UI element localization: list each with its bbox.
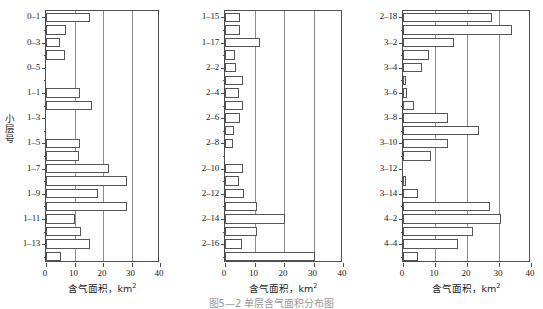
x-axis-title-text: 含气面积，km: [68, 283, 133, 294]
bar: [403, 13, 492, 22]
y-axis-tick: [399, 93, 403, 94]
y-axis-minor-tick: [44, 181, 46, 182]
x-axis-tick: [160, 263, 161, 267]
y-axis-title: 小层号: [2, 114, 16, 144]
bar: [46, 176, 127, 185]
bar: [46, 189, 98, 198]
x-axis-tick-label: 20: [98, 268, 107, 278]
bar: [403, 25, 512, 34]
y-axis-minor-tick: [223, 80, 225, 81]
y-axis-minor-tick: [44, 257, 46, 258]
bar: [46, 164, 109, 173]
y-axis-tick-label: 3–4: [384, 62, 397, 72]
bar: [403, 50, 429, 59]
bar: [46, 151, 79, 160]
y-axis-tick-label: 1–9: [27, 188, 40, 198]
gridline: [314, 11, 315, 261]
y-axis-tick-label: 2–10: [202, 163, 219, 173]
y-axis-minor-tick: [401, 206, 403, 207]
y-axis-tick-label: 2–16: [202, 238, 219, 248]
x-axis-tick-label: 20: [462, 268, 471, 278]
y-axis-tick-label: 2–6: [206, 112, 219, 122]
bar: [46, 38, 60, 47]
bar: [403, 214, 501, 223]
y-axis-minor-tick: [44, 30, 46, 31]
y-axis-tick: [42, 93, 46, 94]
y-axis-minor-tick: [223, 232, 225, 233]
y-axis-tick-label: 3–6: [384, 87, 397, 97]
x-axis-tick-label: 30: [308, 268, 317, 278]
y-axis-minor-tick: [401, 156, 403, 157]
x-axis-title-text: 含气面积，km: [249, 283, 314, 294]
bar: [403, 227, 473, 236]
y-axis-minor-tick: [401, 131, 403, 132]
y-axis-minor-tick: [223, 106, 225, 107]
y-axis-tick: [399, 43, 403, 44]
bar: [403, 88, 407, 97]
x-axis-tick-label: 10: [430, 268, 439, 278]
y-axis-tick-label: 2–12: [202, 188, 219, 198]
bar: [46, 50, 65, 59]
x-axis-tick-label: 0: [400, 268, 405, 278]
y-axis-tick-label: 0–3: [27, 37, 40, 47]
x-axis-tick-label: 40: [155, 268, 164, 278]
y-axis-tick: [399, 68, 403, 69]
x-axis-tick-label: 10: [69, 268, 78, 278]
bar: [225, 239, 242, 248]
y-axis-minor-tick: [401, 181, 403, 182]
bar: [225, 252, 315, 261]
y-axis-tick-label: 3–14: [380, 188, 397, 198]
y-axis-tick: [399, 194, 403, 195]
y-axis-minor-tick: [401, 232, 403, 233]
y-axis-minor-tick: [44, 156, 46, 157]
y-axis-tick: [221, 118, 225, 119]
bar: [225, 202, 257, 211]
y-axis-tick: [221, 194, 225, 195]
y-axis-tick: [221, 93, 225, 94]
bar: [403, 151, 431, 160]
y-axis-minor-tick: [44, 55, 46, 56]
x-axis-tick-label: 0: [222, 268, 227, 278]
y-axis-tick: [399, 244, 403, 245]
y-axis-minor-tick: [401, 30, 403, 31]
y-axis-tick: [399, 169, 403, 170]
bar: [403, 126, 479, 135]
bar: [403, 101, 414, 110]
figure-caption: 图5—2 单层含气面积分布图: [0, 295, 543, 309]
bar: [403, 202, 490, 211]
bar: [403, 252, 418, 261]
bar: [225, 50, 235, 59]
x-axis-tick: [314, 263, 315, 267]
x-axis-tick: [284, 263, 285, 267]
x-axis-tick: [531, 263, 532, 267]
y-axis-tick: [42, 43, 46, 44]
y-axis-tick: [221, 68, 225, 69]
y-axis-tick: [42, 68, 46, 69]
y-axis-tick: [221, 219, 225, 220]
bar: [46, 202, 127, 211]
bar: [225, 63, 236, 72]
y-axis-tick: [399, 17, 403, 18]
bar: [225, 101, 243, 110]
y-axis-tick: [221, 143, 225, 144]
bar: [225, 214, 285, 223]
bar: [225, 113, 240, 122]
y-axis-tick-label: 2–14: [202, 213, 219, 223]
bar: [46, 214, 75, 223]
y-axis-minor-tick: [44, 232, 46, 233]
y-axis-minor-tick: [223, 55, 225, 56]
y-axis-minor-tick: [223, 206, 225, 207]
y-axis-minor-tick: [44, 106, 46, 107]
bar: [225, 38, 260, 47]
plot-area-2: [224, 10, 342, 262]
y-axis-tick-label: 1–1: [27, 87, 40, 97]
bar: [403, 139, 448, 148]
y-axis-minor-tick: [223, 257, 225, 258]
bar: [46, 88, 80, 97]
x-axis-tick: [403, 263, 404, 267]
gridline: [103, 11, 104, 261]
y-axis-minor-tick: [223, 156, 225, 157]
bar: [46, 101, 92, 110]
x-axis-tick-label: 30: [126, 268, 135, 278]
bar: [46, 227, 81, 236]
